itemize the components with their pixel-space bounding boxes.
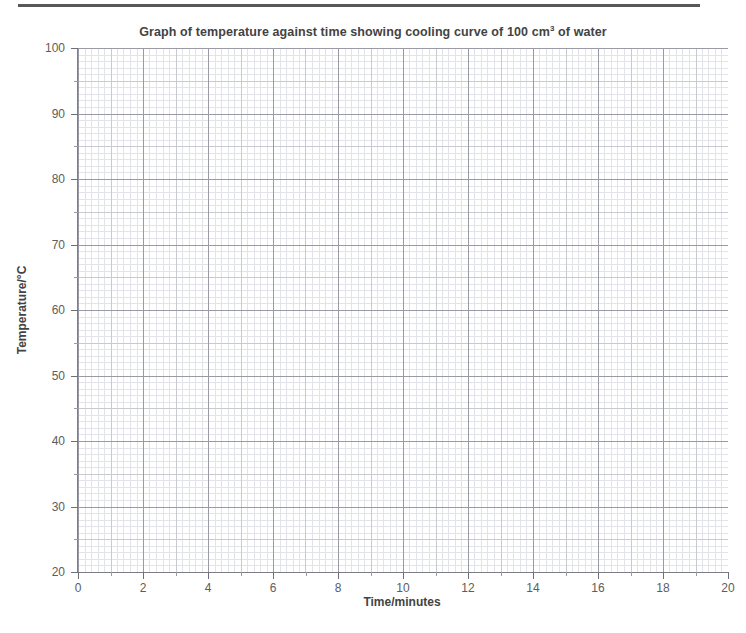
- y-tick-minor: [74, 343, 78, 344]
- y-tick-label: 100: [45, 41, 65, 55]
- y-tick-major: [71, 179, 78, 180]
- x-tick-label: 12: [461, 581, 474, 595]
- y-tick-major: [71, 507, 78, 508]
- chart-title-main: Graph of temperature against time showin…: [139, 25, 550, 39]
- x-tick-minor: [371, 572, 372, 576]
- x-tick-label: 14: [526, 581, 539, 595]
- x-tick-major: [338, 572, 339, 579]
- x-tick-label: 0: [75, 581, 82, 595]
- y-tick-label: 60: [52, 303, 65, 317]
- x-tick-minor: [501, 572, 502, 576]
- y-tick-major: [71, 572, 78, 573]
- chart-title: Graph of temperature against time showin…: [0, 25, 746, 39]
- x-tick-label: 2: [140, 581, 147, 595]
- x-tick-major: [403, 572, 404, 579]
- y-tick-label: 50: [52, 369, 65, 383]
- x-tick-minor: [111, 572, 112, 576]
- x-tick-major: [728, 572, 729, 579]
- y-tick-major: [71, 48, 78, 49]
- x-tick-major: [208, 572, 209, 579]
- graph-paper-grid: [78, 48, 728, 572]
- y-tick-major: [71, 310, 78, 311]
- x-tick-minor: [696, 572, 697, 576]
- x-tick-minor: [241, 572, 242, 576]
- x-tick-major: [598, 572, 599, 579]
- x-tick-major: [273, 572, 274, 579]
- y-tick-minor: [74, 81, 78, 82]
- x-tick-label: 8: [335, 581, 342, 595]
- x-tick-major: [78, 572, 79, 579]
- y-tick-minor: [74, 277, 78, 278]
- x-tick-minor: [631, 572, 632, 576]
- y-tick-label: 80: [52, 172, 65, 186]
- y-tick-minor: [74, 146, 78, 147]
- x-tick-label: 6: [270, 581, 277, 595]
- y-tick-major: [71, 114, 78, 115]
- x-tick-major: [663, 572, 664, 579]
- x-tick-minor: [306, 572, 307, 576]
- y-tick-label: 90: [52, 107, 65, 121]
- x-tick-minor: [566, 572, 567, 576]
- y-tick-minor: [74, 539, 78, 540]
- y-tick-major: [71, 245, 78, 246]
- y-tick-label: 30: [52, 500, 65, 514]
- y-tick-label: 70: [52, 238, 65, 252]
- y-tick-minor: [74, 474, 78, 475]
- graph-figure: Graph of temperature against time showin…: [0, 0, 746, 633]
- y-tick-major: [71, 376, 78, 377]
- y-tick-minor: [74, 408, 78, 409]
- plot-area: 02468101214161820 2030405060708090100: [77, 48, 728, 573]
- x-axis-title: Time/minutes: [77, 595, 727, 609]
- y-tick-label: 20: [52, 565, 65, 579]
- y-tick-label: 40: [52, 434, 65, 448]
- x-tick-minor: [436, 572, 437, 576]
- x-tick-major: [468, 572, 469, 579]
- x-tick-label: 18: [656, 581, 669, 595]
- x-tick-minor: [176, 572, 177, 576]
- x-tick-label: 10: [396, 581, 409, 595]
- chart-title-tail: of water: [555, 25, 607, 39]
- x-tick-label: 4: [205, 581, 212, 595]
- x-tick-major: [533, 572, 534, 579]
- y-tick-major: [71, 441, 78, 442]
- x-tick-major: [143, 572, 144, 579]
- x-tick-label: 16: [591, 581, 604, 595]
- y-tick-minor: [74, 212, 78, 213]
- x-tick-label: 20: [721, 581, 734, 595]
- y-axis-title: Temperature/°C: [15, 266, 29, 355]
